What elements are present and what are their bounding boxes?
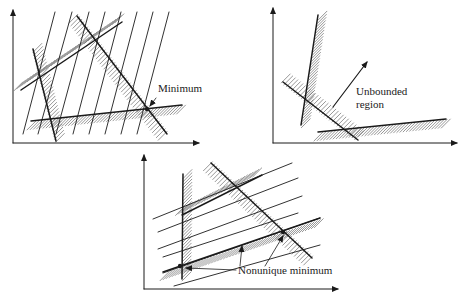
panel-nonunique-minimum: Nonunique minimum [144, 155, 338, 289]
constraint-line [182, 175, 262, 215]
annotation-label: region [356, 98, 385, 110]
annotation-label: Minimum [158, 82, 202, 94]
lp-diagram: Minimum Unboundedregion Nonunique minimu… [0, 0, 461, 296]
objective-contour-line [121, 12, 153, 134]
optimum-point [145, 107, 149, 111]
objective-contour-line [153, 163, 292, 219]
constraint-hatching [281, 74, 364, 140]
constraint-line [77, 16, 167, 134]
constraint-hatching [301, 11, 327, 128]
annotation-label: Unbounded [356, 85, 408, 97]
optimum-point [281, 230, 285, 234]
panel-unbounded: Unboundedregion [273, 8, 457, 143]
label-pointer [150, 98, 156, 106]
optimum-point [178, 264, 182, 268]
constraint-hatching [14, 14, 124, 91]
panel-unique-minimum: Minimum [13, 10, 202, 143]
annotation-label: Nonunique minimum [238, 264, 333, 276]
objective-contour-line [89, 12, 121, 134]
constraint-line [182, 174, 183, 279]
